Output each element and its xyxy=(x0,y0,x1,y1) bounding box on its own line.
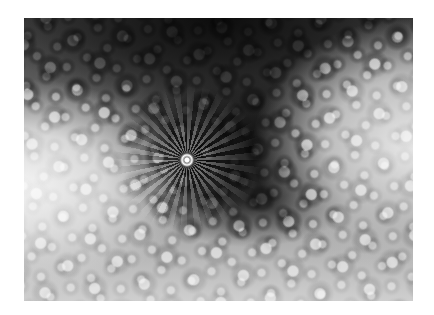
spiral-center xyxy=(177,150,197,170)
fractal-image xyxy=(24,18,413,301)
fractal-spiral xyxy=(24,18,413,301)
